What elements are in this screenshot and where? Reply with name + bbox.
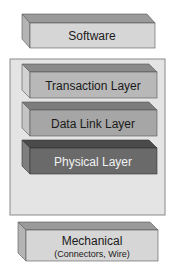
data-link-layer-block: Data Link Layer <box>22 102 157 136</box>
physical-layer-block: Physical Layer <box>22 140 157 174</box>
mechanical-label: Mechanical <box>62 234 123 248</box>
data-link-layer-label: Data Link Layer <box>51 117 135 131</box>
physical-layer-label: Physical Layer <box>54 155 132 169</box>
transaction-layer-label: Transaction Layer <box>45 79 141 93</box>
transaction-layer-block: Transaction Layer <box>22 64 157 98</box>
mechanical-sublabel: (Connectors, Wire) <box>54 249 130 259</box>
software-block: Software <box>22 14 155 48</box>
mechanical-block: Mechanical (Connectors, Wire) <box>18 222 158 261</box>
software-label: Software <box>68 29 116 43</box>
layer-diagram: Software Transaction Layer Data Link Lay… <box>0 0 176 263</box>
